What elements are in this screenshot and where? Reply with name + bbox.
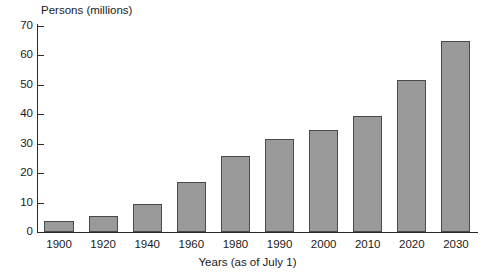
x-axis-tick-label: 1940 <box>125 238 169 251</box>
bar <box>353 116 382 232</box>
y-axis-tick-labels: 706050403020100 <box>0 0 33 278</box>
y-axis-tick-label: 0 <box>5 226 33 238</box>
x-axis-tick-label: 2030 <box>434 238 478 251</box>
y-axis-tick-label: 60 <box>5 49 33 61</box>
x-axis-tick-label: 1960 <box>169 238 213 251</box>
plot-area <box>37 26 478 232</box>
bar <box>89 216 118 232</box>
y-axis-tick-label: 40 <box>5 108 33 120</box>
x-axis-tick-label: 1920 <box>81 238 125 251</box>
x-axis-title: Years (as of July 1) <box>0 255 495 269</box>
bar <box>133 204 162 232</box>
y-axis-tick-label: 50 <box>5 79 33 91</box>
y-axis-tick-label: 20 <box>5 167 33 179</box>
y-axis-tick-label: 70 <box>5 20 33 32</box>
x-axis-tick-label: 2000 <box>302 238 346 251</box>
x-axis-tick-label: 2010 <box>346 238 390 251</box>
bar <box>397 80 426 232</box>
bar <box>309 130 338 232</box>
y-axis-tick-label: 30 <box>5 138 33 150</box>
y-axis-tick-label: 10 <box>5 197 33 209</box>
bar <box>265 139 294 232</box>
x-axis-tick-label: 2020 <box>390 238 434 251</box>
bar-chart: Persons (millions) 706050403020100 19001… <box>0 0 495 278</box>
x-axis-tick-label: 1990 <box>258 238 302 251</box>
y-axis-tick-mark <box>38 232 44 233</box>
bar <box>441 41 470 232</box>
x-axis-line <box>37 232 478 233</box>
x-axis-tick-label: 1980 <box>213 238 257 251</box>
bar <box>221 156 250 232</box>
x-axis-tick-label: 1900 <box>37 238 81 251</box>
bar <box>44 221 73 232</box>
bar <box>177 182 206 232</box>
y-axis-title: Persons (millions) <box>41 3 132 17</box>
